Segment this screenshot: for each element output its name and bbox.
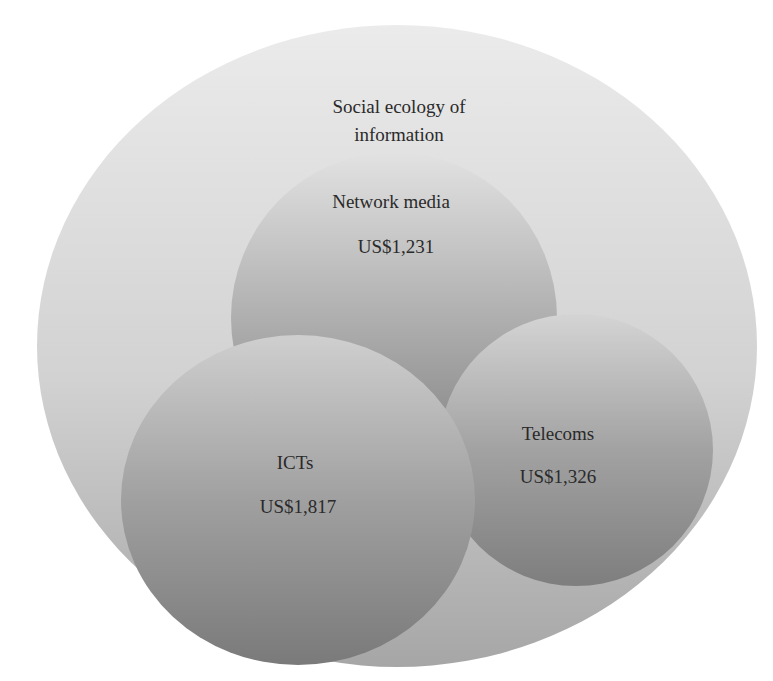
circle-telecoms [439,314,713,586]
outer-label: Social ecology of information [333,93,466,149]
telecoms-value: US$1,326 [520,466,597,489]
diagram-canvas: Social ecology of information Network me… [0,0,773,681]
outer-label-line1: Social ecology of [333,93,466,121]
outer-label-line2: information [333,121,466,149]
telecoms-label: Telecoms [522,423,595,446]
network-media-value: US$1,231 [358,236,435,259]
icts-label: ICTs [277,452,314,475]
network-media-label: Network media [332,191,450,214]
icts-value: US$1,817 [260,496,337,519]
